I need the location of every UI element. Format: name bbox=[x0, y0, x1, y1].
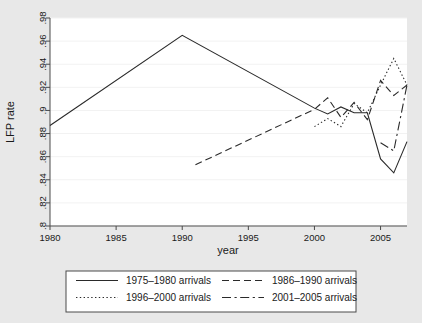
legend-label-3: 1996–2000 arrivals bbox=[126, 292, 211, 303]
chart-root: 198019851990199520002005 .8.82.84.86.88.… bbox=[0, 0, 422, 323]
y-tick-label: .8 bbox=[37, 222, 48, 230]
y-tick-label: .86 bbox=[37, 150, 48, 163]
legend-label-2: 1986–1990 arrivals bbox=[272, 275, 357, 286]
y-tick-label: .96 bbox=[37, 35, 48, 48]
x-tick-label: 1980 bbox=[39, 232, 60, 243]
y-tick-label: .82 bbox=[37, 196, 48, 209]
y-tick-label: .98 bbox=[37, 11, 48, 24]
x-tick-label: 2000 bbox=[304, 232, 325, 243]
plot-area-background bbox=[50, 18, 407, 226]
x-tick-label: 1985 bbox=[106, 232, 127, 243]
y-tick-label: .88 bbox=[37, 127, 48, 140]
x-tick-label: 2005 bbox=[370, 232, 391, 243]
y-tick-label: .92 bbox=[37, 81, 48, 94]
lfp-rate-line-chart: 198019851990199520002005 .8.82.84.86.88.… bbox=[0, 0, 422, 323]
x-axis-title: year bbox=[217, 244, 239, 256]
legend-label-1: 1975–1980 arrivals bbox=[126, 275, 211, 286]
x-tick-label: 1995 bbox=[238, 232, 259, 243]
y-axis-title: LFP rate bbox=[4, 101, 16, 143]
y-tick-label: .94 bbox=[37, 58, 48, 71]
y-tick-label: .9 bbox=[37, 106, 48, 114]
y-tick-label: .84 bbox=[37, 173, 48, 186]
legend-label-4: 2001–2005 arrivals bbox=[272, 292, 357, 303]
x-tick-label: 1990 bbox=[172, 232, 193, 243]
